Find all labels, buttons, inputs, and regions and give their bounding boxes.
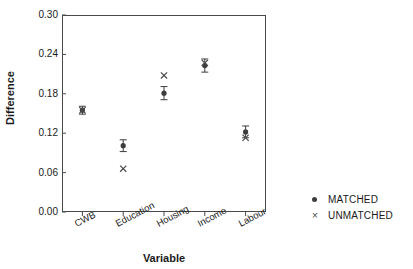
y-axis-label: Difference	[4, 58, 16, 138]
y-axis-tick-labels: 0.000.060.120.180.240.30	[20, 0, 58, 269]
y-tick-label: 0.18	[24, 89, 58, 99]
legend-item: ×UNMATCHED	[308, 209, 408, 223]
filled-circle-icon	[308, 194, 322, 206]
y-tick-label: 0.00	[24, 207, 58, 217]
x-tick-label: CWB	[73, 210, 97, 229]
legend-item-label: MATCHED	[328, 194, 378, 206]
legend-item-label: UNMATCHED	[328, 210, 393, 222]
x-axis-label: Variable	[62, 252, 266, 264]
chart-legend: MATCHED×UNMATCHED	[308, 193, 408, 225]
chart-figure: Difference 0.000.060.120.180.240.30 CWBE…	[0, 0, 413, 269]
y-tick-label: 0.06	[24, 168, 58, 178]
cross-icon: ×	[308, 210, 322, 222]
chart-title	[60, 0, 290, 2]
y-tick-label: 0.24	[24, 49, 58, 59]
plot-area	[62, 15, 266, 212]
y-tick-label: 0.12	[24, 128, 58, 138]
legend-item: MATCHED	[308, 193, 408, 207]
y-tick-label: 0.30	[24, 10, 58, 20]
